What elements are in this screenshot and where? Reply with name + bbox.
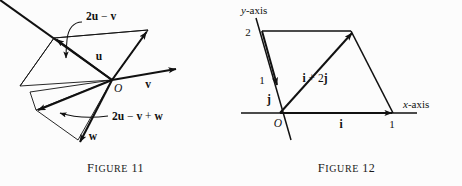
label-j: j: [266, 93, 271, 106]
label-origin-fig11: O: [114, 82, 123, 94]
figure-12-caption: FIGURE 12: [231, 161, 462, 176]
label-2u-minus-v: 2u − v: [86, 10, 116, 22]
label-y-axis: y-axis: [240, 4, 267, 16]
vector-v: [112, 69, 176, 80]
label-i: i: [339, 118, 343, 130]
label-w: w: [89, 130, 98, 142]
figure-pair-page: 2u − v 2u − v + w u v w O FIGURE 11: [0, 0, 462, 186]
label-x-axis: x-axis: [402, 98, 429, 110]
leader-2u-minus-v-plus-w: [60, 113, 108, 117]
figure-12-diagram: y-axis x-axis 2 1 1 j i i + 2j O: [231, 0, 462, 160]
figure-11-diagram: 2u − v 2u − v + w u v w O: [0, 0, 231, 160]
figure-11-caption: FIGURE 11: [0, 161, 231, 176]
figure-11-caption-number: 11: [131, 161, 144, 175]
tick-label-x-1: 1: [389, 118, 395, 130]
tick-label-y-2: 2: [245, 26, 251, 38]
label-u: u: [96, 50, 103, 62]
label-v: v: [145, 78, 151, 90]
label-2u-minus-v-plus-w: 2u − v + w: [112, 110, 163, 122]
label-origin-fig12: O: [274, 117, 283, 129]
figure-12-panel: y-axis x-axis 2 1 1 j i i + 2j O FIGURE …: [231, 0, 462, 186]
tick-label-y-1: 1: [259, 74, 265, 86]
lower-parallelogram: [30, 80, 112, 140]
figure-12-caption-word-rest: IGURE: [325, 163, 359, 174]
figure-11-caption-word-first: F: [87, 161, 95, 175]
label-i-plus-2j: i + 2j: [302, 72, 327, 85]
vector-u: [112, 32, 147, 80]
figure-12-caption-number: 12: [362, 161, 375, 175]
figure-11-panel: 2u − v 2u − v + w u v w O FIGURE 11: [0, 0, 231, 186]
figure-11-caption-word-rest: IGURE: [95, 163, 129, 174]
